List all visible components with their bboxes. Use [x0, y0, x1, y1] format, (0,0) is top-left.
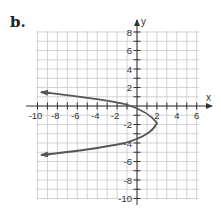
x-tick-label: -6 [71, 110, 79, 121]
parabola-curve [41, 92, 157, 155]
upper-arrow [41, 92, 50, 93]
y-tick-label: -8 [124, 175, 132, 186]
y-tick-label: -2 [124, 119, 132, 130]
y-tick-label: 8 [127, 27, 132, 38]
x-tick-label: 4 [174, 110, 179, 121]
x-axis-label: x [206, 92, 211, 103]
y-tick-label: 6 [127, 45, 132, 56]
lower-arrow [41, 154, 50, 155]
y-tick-label: 4 [127, 64, 132, 75]
x-tick-label: -4 [91, 110, 99, 121]
y-tick-label: -10 [118, 193, 132, 204]
x-tick-label: 6 [194, 110, 199, 121]
x-tick-label: -8 [51, 110, 59, 121]
y-tick-label: 2 [127, 82, 132, 93]
coordinate-plane: x y -10-8-6-4-22468642-2-4-6-8-10 [0, 0, 221, 216]
y-axis-label: y [141, 16, 146, 27]
tick-labels: -10-8-6-4-22468642-2-4-6-8-10 [29, 27, 200, 205]
y-tick-label: -6 [124, 156, 132, 167]
x-tick-label: -10 [29, 110, 43, 121]
x-tick-label: -2 [111, 110, 119, 121]
